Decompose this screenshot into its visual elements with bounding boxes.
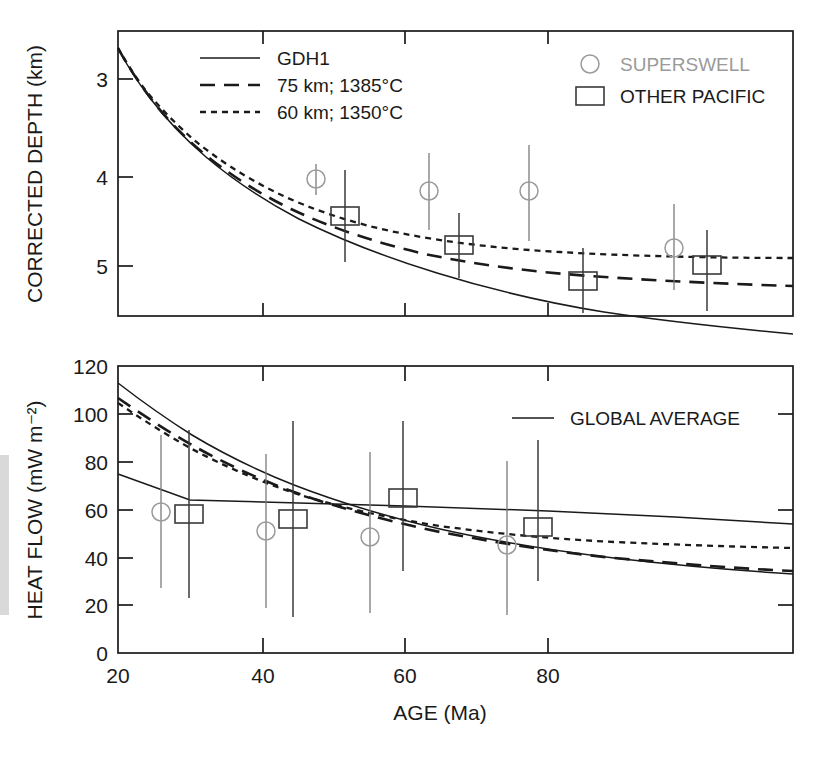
depth-axis-title: CORRECTED DEPTH (km) (23, 45, 46, 303)
heatflow-superswell-points (152, 435, 516, 615)
model-legend: GDH1 75 km; 1385°C 60 km; 1350°C (200, 48, 403, 123)
legend-label-superswell: SUPERSWELL (620, 54, 750, 75)
heatflow-ytick-label-5: 20 (85, 594, 108, 617)
depth-ytick-label-0: 3 (96, 68, 108, 91)
heatflow-ytick-label-0: 120 (73, 355, 108, 378)
legend-label-60km: 60 km; 1350°C (277, 102, 403, 123)
legend-label-gdh1: GDH1 (277, 48, 330, 69)
heatflow-curve-global-average (118, 474, 793, 524)
depth-superswell-points (307, 145, 683, 290)
heatflow-axis-title: HEAT FLOW (mW m⁻²) (23, 400, 46, 619)
heatflow-ytick-label-3: 60 (85, 499, 108, 522)
legend-label-global-average: GLOBAL AVERAGE (570, 408, 740, 429)
legend-swatch-superswell-circle-icon (581, 55, 599, 73)
depth-ytick-label-2: 5 (96, 255, 108, 278)
legend-swatch-other-pacific-square-icon (576, 87, 604, 105)
depth-curve-60km (118, 48, 793, 258)
legend-label-75km: 75 km; 1385°C (277, 75, 403, 96)
xtick-label-1: 40 (251, 664, 274, 687)
heatflow-ytick-label-2: 80 (85, 451, 108, 474)
heatflow-ytick-label-6: 0 (96, 642, 108, 665)
depth-y-ticks (118, 79, 133, 266)
figure-root: 3 4 5 CORRECTED DEPTH (km) (0, 0, 827, 757)
heatflow-ytick-label-1: 100 (73, 403, 108, 426)
heatflow-panel: 120 100 80 60 40 20 0 20 40 60 80 HEAT F… (23, 355, 793, 724)
depth-other-pacific-points (331, 170, 721, 313)
heatflow-ytick-label-4: 40 (85, 547, 108, 570)
heatflow-y-ticks (118, 414, 793, 605)
heatflow-other-pacific-points (175, 421, 552, 617)
depth-ytick-label-1: 4 (96, 166, 108, 189)
xtick-label-2: 60 (393, 664, 416, 687)
depth-panel: 3 4 5 CORRECTED DEPTH (km) (23, 31, 793, 334)
xtick-label-0: 20 (106, 664, 129, 687)
chart-canvas: 3 4 5 CORRECTED DEPTH (km) (0, 0, 827, 757)
global-average-legend: GLOBAL AVERAGE (512, 408, 740, 429)
page-edge-shadow (0, 455, 9, 615)
marker-legend: SUPERSWELL OTHER PACIFIC (576, 54, 765, 107)
x-axis-title: AGE (Ma) (393, 701, 486, 724)
xtick-label-3: 80 (536, 664, 559, 687)
legend-label-other-pacific: OTHER PACIFIC (620, 86, 765, 107)
depth-x-ticks (263, 31, 548, 316)
